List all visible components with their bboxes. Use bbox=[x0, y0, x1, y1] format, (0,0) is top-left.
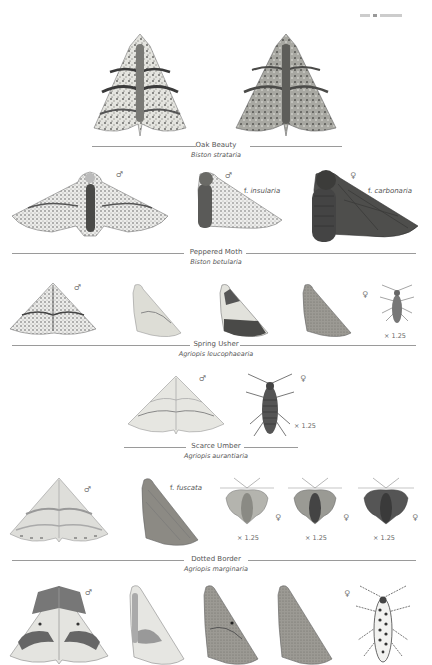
moth-figure-row6-rest-pale bbox=[128, 585, 186, 665]
moth-figure-dotted-border-female-2 bbox=[288, 478, 342, 528]
moth-figure-dotted-border-fuscata bbox=[140, 478, 200, 548]
species-scientific-name: Biston betularia bbox=[0, 258, 432, 267]
moth-figure-row6-female bbox=[352, 586, 414, 665]
female-symbol: ♀ bbox=[344, 590, 350, 598]
species-common-name: Oak Beauty bbox=[0, 141, 432, 150]
moth-figure-dotted-border-female-3 bbox=[358, 478, 414, 528]
moth-figure-row6-rest-plain bbox=[276, 585, 334, 665]
species-scientific-name: Agriopis aurantiaria bbox=[0, 452, 432, 461]
species-scientific-name: Agriopis marginaria bbox=[0, 565, 432, 574]
moth-figure-peppered-typical bbox=[8, 170, 172, 238]
moth-figure-spring-usher-rest-dark bbox=[301, 283, 353, 339]
moth-figure-spring-usher-spread bbox=[8, 281, 98, 337]
female-symbol: ♀ bbox=[300, 375, 306, 383]
species-common-name: Peppered Moth bbox=[0, 248, 432, 257]
species-scientific-name: Agriopis leucophaearia bbox=[0, 350, 432, 359]
scale-label: × 1.25 bbox=[294, 422, 316, 430]
species-common-name: Scarce Umber bbox=[0, 442, 432, 451]
scale-label: × 1.25 bbox=[237, 534, 259, 542]
moth-figure-peppered-carbonaria bbox=[308, 170, 420, 246]
species-scientific-name: Biston strataria bbox=[0, 151, 432, 160]
female-symbol: ♀ bbox=[362, 291, 368, 299]
moth-figure-spring-usher-female bbox=[378, 285, 416, 329]
moth-figure-spring-usher-rest-pale bbox=[131, 283, 183, 339]
moth-figure-peppered-insularia bbox=[192, 170, 286, 232]
female-symbol: ♀ bbox=[343, 514, 349, 522]
moth-figure-dotted-border-female-1 bbox=[220, 478, 274, 528]
running-head bbox=[360, 2, 420, 8]
moth-figure-scarce-umber-female bbox=[242, 374, 298, 440]
scale-label: × 1.25 bbox=[373, 534, 395, 542]
moth-figure-oak-beauty-2 bbox=[234, 32, 338, 138]
moth-figure-row6-spread bbox=[8, 584, 110, 665]
species-common-name: Spring Usher bbox=[0, 340, 432, 349]
moth-figure-row6-rest-mid bbox=[202, 585, 260, 665]
moth-figure-dotted-border-male bbox=[8, 476, 110, 546]
moth-figure-scarce-umber-male bbox=[126, 374, 226, 436]
moth-figure-spring-usher-rest-banded bbox=[218, 283, 270, 339]
scale-label: × 1.25 bbox=[384, 332, 406, 340]
moth-figure-oak-beauty-1 bbox=[92, 32, 188, 138]
scale-label: × 1.25 bbox=[305, 534, 327, 542]
female-symbol: ♀ bbox=[412, 514, 418, 522]
female-symbol: ♀ bbox=[275, 514, 281, 522]
species-common-name: Dotted Border bbox=[0, 555, 432, 564]
